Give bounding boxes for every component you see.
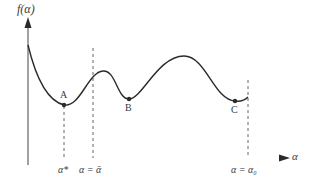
x-axis-arrow-icon [279, 155, 290, 162]
function-plot [0, 0, 309, 178]
tick-label-alpha-star: α* [58, 165, 68, 175]
y-axis [25, 17, 32, 165]
y-axis-label: f(α) [17, 3, 35, 15]
point-b-label: B [125, 103, 132, 113]
x-axis-label: α [292, 151, 298, 162]
point-a-marker [62, 103, 66, 107]
point-c-label: C [231, 105, 238, 115]
point-a-label: A [60, 90, 67, 100]
point-b-marker [127, 97, 131, 101]
x-axis [17, 155, 290, 162]
point-c-marker [233, 99, 237, 103]
y-axis-arrow-icon [25, 17, 32, 28]
tick-label-alpha-bar: α = ᾱ [79, 165, 101, 175]
tick-label-alpha-0: α = α₀ [231, 165, 257, 175]
